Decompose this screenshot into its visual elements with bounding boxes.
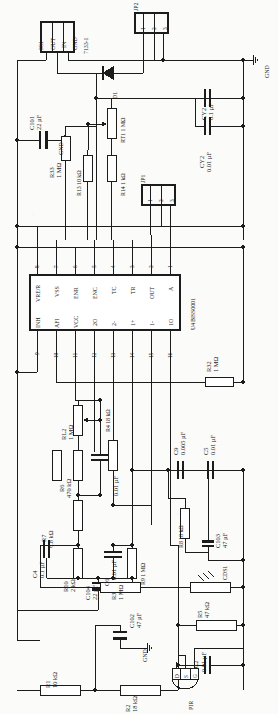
- c102-value: 47 µF: [135, 613, 142, 628]
- rt1-label: RT1 1 MΩ: [120, 118, 126, 143]
- r5-value: 47 kΩ: [203, 602, 210, 618]
- u4-top-pinnum-2: 2: [149, 265, 155, 268]
- u4-pin-vss: VSS: [54, 286, 60, 297]
- c103-value: 47 µF: [221, 533, 228, 548]
- u4-pin-2n: 2-: [111, 321, 117, 326]
- u4-top-pinnum-8: 8: [35, 265, 41, 268]
- u4-bot-pinnum-12: 12: [92, 353, 98, 358]
- gnd-label-right: GND: [264, 65, 270, 78]
- u4-top-pinnum-5: 5: [92, 265, 98, 268]
- r1-value: 10 kΩ: [51, 672, 58, 688]
- u4-bot-pinnum-15: 15: [149, 353, 155, 358]
- rl2-value: 1 MΩ: [67, 425, 74, 440]
- u4-top-pinnum-3: 3: [130, 265, 136, 268]
- r4-label: R4 18 kΩ: [105, 409, 111, 432]
- r9-label: R9 1 MΩ: [140, 563, 146, 585]
- schematic-drawing: [0, 0, 278, 714]
- r6-value: 470 kΩ: [65, 479, 72, 498]
- r33-value: 1 MΩ: [55, 163, 62, 178]
- jp2-pin-2: 2: [152, 27, 158, 30]
- jp1-pin-2: 2: [159, 199, 165, 202]
- u4-bot-pinnum-16: 16: [168, 353, 174, 358]
- c-mid-value: 0.01 µF: [112, 476, 119, 496]
- r2-value: 18 kΩ: [131, 696, 138, 712]
- u4-top-pinnum-1: 1: [168, 265, 174, 268]
- gnd-label-c101: GND: [58, 142, 64, 155]
- c104-value: 22 µF: [91, 585, 98, 600]
- u4-bot-pinnum-9: 9: [35, 352, 41, 355]
- r3-value: 1 MΩ: [117, 585, 124, 600]
- r32-value: 1 MΩ: [212, 357, 219, 372]
- ic1-ref: IC1: [38, 41, 44, 50]
- jp1-ref: JP1: [140, 175, 146, 183]
- r8-label: R8 18 kΩ: [178, 525, 184, 548]
- r14-label: R14 1 kΩ: [120, 173, 126, 196]
- pir-pin-d: D: [175, 674, 181, 678]
- ic1-pin-in-label: IN: [61, 42, 67, 48]
- u4-pin-a: A: [168, 287, 174, 291]
- pir-pin-s: S: [184, 675, 190, 678]
- cy2-01uf-value: 0.1 µF: [207, 103, 214, 120]
- c4-value: 0.1 µF: [38, 561, 45, 578]
- pir-ref: PIR: [188, 701, 194, 710]
- d1-ref: D1: [112, 92, 118, 99]
- jp1-pin-3: 3: [170, 199, 176, 202]
- r10-value: 2 kΩ: [69, 579, 76, 592]
- pir-pin-g: G: [193, 674, 199, 678]
- u4-bot-pinnum-13: 13: [111, 353, 117, 358]
- u4-ref: U4: [190, 323, 196, 330]
- cds1-label: CDS1: [222, 566, 228, 580]
- ic1-pin-gnd-label: GND: [72, 37, 78, 50]
- u4-pin-1p: 1+: [130, 320, 136, 326]
- ic1-pin-out-label: OUT: [50, 38, 56, 50]
- jp2-pin-1: 1: [141, 27, 147, 30]
- c5-value: 0.01 µF: [209, 435, 216, 455]
- u4-top-pinnum-4: 4: [111, 265, 117, 268]
- u4-part-number: BISS0001: [190, 298, 196, 322]
- u4-pin-2o: 2O: [92, 319, 98, 326]
- u4-pin-inh: INH: [35, 318, 41, 328]
- schematic-sheet: IC1 OUT IN GND 7133-1 JP2 1 2 3 D1 GND C…: [0, 0, 278, 714]
- c9-value: 0.005 µF: [179, 432, 186, 455]
- u4-pin-out: OUT: [149, 287, 155, 299]
- c2-value: 0.01 µF: [200, 652, 207, 672]
- u4-bot-pinnum-11: 11: [73, 353, 79, 358]
- jp2-ref: JP2: [133, 3, 139, 11]
- u4-pin-tr: TR: [130, 287, 136, 294]
- u4-pin-1o: 1O: [168, 319, 174, 326]
- u4-pin-afi: AFI: [54, 319, 60, 328]
- u4-pin-enc: ENC: [92, 287, 98, 299]
- gnd-label-c102: GND: [142, 649, 148, 662]
- r7-value: 6.8 kΩ: [47, 530, 54, 548]
- u4-pin-enr: ENR: [73, 287, 79, 299]
- jp2-pin-3: 3: [163, 27, 169, 30]
- u4-top-pinnum-7: 7: [54, 265, 60, 268]
- c101-value: 22 µF: [35, 115, 42, 130]
- u4-pin-tc: TC: [111, 287, 117, 294]
- u4-pin-1n: 1-: [149, 321, 155, 326]
- cy2-001uf-value: 0.01 µF: [205, 152, 212, 172]
- c2-ref: C2: [192, 661, 199, 668]
- jp1-pin-1: 1: [148, 199, 154, 202]
- u4-pin-vcc: VCC: [73, 316, 79, 328]
- r13-label: R13 10 kΩ: [76, 170, 82, 196]
- u4-bot-pinnum-14: 14: [130, 353, 136, 358]
- c6-value: 0.01 µF: [110, 560, 117, 580]
- u4-pin-vre-r: VRE/R: [35, 285, 41, 302]
- u4-top-pinnum-6: 6: [73, 265, 79, 268]
- u4-bot-pinnum-10: 10: [54, 353, 60, 358]
- ic1-part-number: 7133-1: [83, 38, 89, 54]
